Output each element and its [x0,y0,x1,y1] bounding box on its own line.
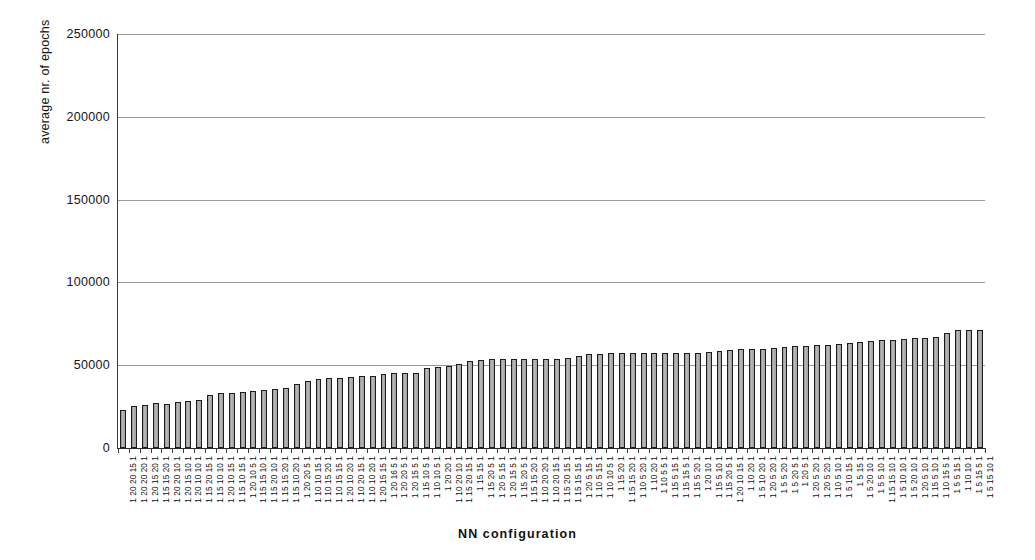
x-tick-label: 1 5 10 15 1 [842,456,851,498]
x-tick-label: 1 10 15 5 1 [939,456,948,498]
x-tick [595,448,596,453]
bar [511,359,517,448]
x-tick [714,448,715,453]
x-tick-label: 1 15 20 15 1 [202,456,211,503]
bar [196,400,202,448]
x-tick-label: 1 15 15 10 1 [885,456,894,503]
x-tick [779,448,780,453]
x-tick-label: 1 15 20 15 1 [462,456,471,503]
x-tick [476,448,477,453]
x-tick [302,448,303,453]
x-tick [584,448,585,453]
x-tick-label: 1 10 20 1 [647,456,656,491]
bar [554,359,560,448]
x-tick-label: 1 10 5 15 1 [592,456,601,498]
x-tick [833,448,834,453]
x-tick [963,448,964,453]
bar [630,353,636,448]
x-tick [909,448,910,453]
x-tick-label: 1 20 15 10 1 [181,456,190,503]
x-tick [335,448,336,453]
bar [782,347,788,448]
bar [381,374,387,448]
x-tick [486,448,487,453]
bar [435,367,441,448]
bar [684,353,690,448]
bar [651,353,657,448]
bar [207,395,213,448]
x-tick [757,448,758,453]
x-tick-label: 1 15 15 20 1 [278,456,287,503]
bar [597,354,603,448]
x-tick-label: 1 15 5 20 1 [690,456,699,498]
bar [933,337,939,448]
x-tick-label: 1 10 15 20 1 [321,456,330,503]
bar [218,393,224,448]
x-tick-label: 1 15 15 10 1 [256,456,265,503]
x-tick-label: 1 15 20 5 1 [722,456,731,498]
x-tick [129,448,130,453]
plot-area [118,34,985,448]
x-tick-label: 1 15 10 5 1 [419,456,428,498]
bar [164,404,170,448]
bar [912,338,918,448]
x-tick-label: 1 15 10 10 1 [213,456,222,503]
x-tick-label: 1 15 20 10 1 [267,456,276,503]
bar [489,359,495,448]
x-tick [649,448,650,453]
x-tick [248,448,249,453]
x-tick [237,448,238,453]
x-tick [161,448,162,453]
bars-layer [118,34,985,448]
x-tick [627,448,628,453]
x-tick [281,448,282,453]
bar [261,390,267,448]
x-tick-label: 1 15 15 1 [473,456,482,491]
x-tick-label: 1 10 5 10 1 [831,456,840,498]
bar [521,359,527,448]
bar [879,340,885,448]
bar [543,359,549,448]
bar-chart: average nr. of epochs 250000200000150000… [0,0,1035,560]
bar [727,350,733,448]
x-tick [747,448,748,453]
y-tick-label: 200000 [48,111,110,123]
x-tick-label: 1 20 5 20 1 [820,456,829,498]
bar [240,392,246,448]
x-tick-label: 1 10 15 15 1 [332,456,341,503]
x-tick-label: 1 20 5 20 1 [766,456,775,498]
x-tick [400,448,401,453]
x-tick-label: 1 20 15 20 1 [148,456,157,503]
bar [738,349,744,448]
x-tick-label: 1 15 15 5 1 [679,456,688,498]
x-axis-ticks [118,448,985,454]
x-tick-label: 1 10 5 20 1 [636,456,645,498]
bar [695,353,701,448]
x-tick [411,448,412,453]
bar [944,333,950,448]
x-tick-label: 1 15 20 5 1 [484,456,493,498]
y-tick-label: 100000 [48,276,110,288]
x-tick [454,448,455,453]
x-tick [985,448,986,453]
bar [175,402,181,448]
x-tick [497,448,498,453]
x-tick-label: 1 20 20 15 1 [126,456,135,503]
bar [391,373,397,448]
x-tick [530,448,531,453]
bar [760,349,766,448]
bar [565,358,571,448]
x-tick [389,448,390,453]
x-tick-label: 1 20 10 15 1 [224,456,233,503]
x-tick-label: 1 20 15 5 1 [408,456,417,498]
x-tick [703,448,704,453]
x-tick-label: 1 5 15 5 1 [972,456,981,493]
bar [955,330,961,448]
x-tick-label: 1 5 20 5 1 [788,456,797,493]
x-tick-label: 1 15 20 15 1 [560,456,569,503]
bar [586,354,592,448]
x-tick [801,448,802,453]
bar [576,356,582,448]
x-tick-label: 1 20 20 5 1 [300,456,309,498]
x-tick-label: 1 15 15 20 1 [159,456,168,503]
